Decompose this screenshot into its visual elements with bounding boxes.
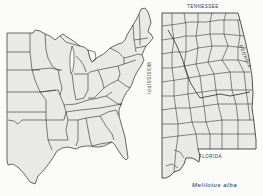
mississippi-label: MISSISSIPPI: [146, 62, 151, 94]
florida-label: FLORIDA: [199, 154, 222, 159]
tennessee-label: TENNESSEE: [187, 4, 219, 9]
distribution-map-figure: TENNESSEE MISSISSIPPI GEORGIA FLORIDA Me…: [0, 0, 263, 196]
species-caption: Melilotus alba: [192, 182, 237, 188]
alabama-county-map: [0, 0, 263, 196]
